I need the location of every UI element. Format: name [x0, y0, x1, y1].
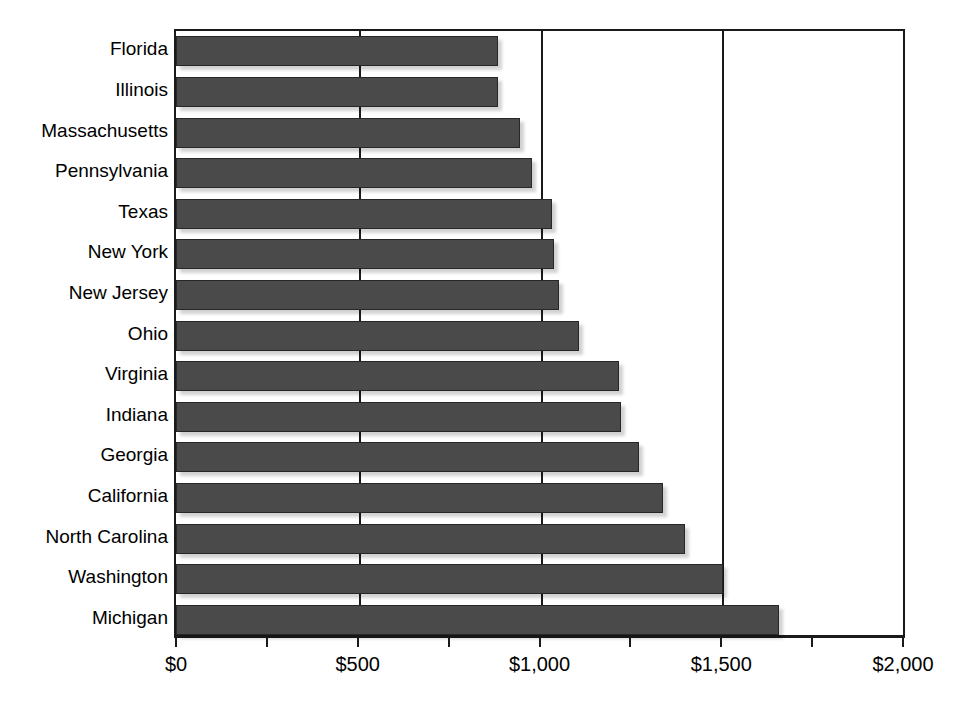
x-tick-minor-1750 [811, 638, 813, 647]
category-label: Indiana [0, 405, 168, 425]
bar-row [176, 199, 907, 229]
category-label: Massachusetts [0, 121, 168, 141]
bar-row [176, 605, 907, 635]
x-tick-major-1500 [720, 638, 722, 647]
x-axis-label: $1,000 [470, 652, 610, 676]
x-tick-minor-1250 [629, 638, 631, 647]
x-axis-label: $2,000 [833, 652, 960, 676]
bar-chart: FloridaIllinoisMassachusettsPennsylvania… [0, 0, 960, 704]
bar[interactable] [176, 402, 621, 432]
bar[interactable] [176, 118, 520, 148]
plot-area [174, 29, 905, 638]
bar-row [176, 361, 907, 391]
category-label: Ohio [0, 324, 168, 344]
category-label: Virginia [0, 364, 168, 384]
x-tick-major-500 [357, 638, 359, 647]
bar-row [176, 483, 907, 513]
category-label: Michigan [0, 608, 168, 628]
bar-row [176, 280, 907, 310]
bar-row [176, 36, 907, 66]
bar-row [176, 564, 907, 594]
bar[interactable] [176, 321, 579, 351]
x-axis-label: $1,500 [651, 652, 791, 676]
bar[interactable] [176, 483, 663, 513]
bar[interactable] [176, 524, 685, 554]
category-label: Illinois [0, 80, 168, 100]
category-label: Texas [0, 202, 168, 222]
bar[interactable] [176, 239, 554, 269]
category-label: North Carolina [0, 527, 168, 547]
category-label: Florida [0, 39, 168, 59]
bar[interactable] [176, 77, 498, 107]
bar[interactable] [176, 564, 723, 594]
category-label: Pennsylvania [0, 161, 168, 181]
x-tick-major-0 [175, 638, 177, 647]
x-tick-minor-250 [266, 638, 268, 647]
x-axis-label: $500 [288, 652, 428, 676]
bar-row [176, 158, 907, 188]
bar[interactable] [176, 36, 498, 66]
bar-row [176, 402, 907, 432]
x-axis-label: $0 [106, 652, 246, 676]
bar-row [176, 239, 907, 269]
category-label: New York [0, 242, 168, 262]
bar[interactable] [176, 199, 552, 229]
bar[interactable] [176, 158, 532, 188]
bar[interactable] [176, 280, 559, 310]
category-axis-labels: FloridaIllinoisMassachusettsPennsylvania… [0, 29, 168, 638]
category-label: California [0, 486, 168, 506]
x-tick-major-2000 [902, 638, 904, 647]
x-tick-minor-750 [448, 638, 450, 647]
bar-row [176, 321, 907, 351]
category-label: Washington [0, 567, 168, 587]
bar-row [176, 77, 907, 107]
bar[interactable] [176, 361, 619, 391]
category-label: New Jersey [0, 283, 168, 303]
x-tick-major-1000 [539, 638, 541, 647]
category-label: Georgia [0, 445, 168, 465]
bar[interactable] [176, 605, 779, 635]
bar[interactable] [176, 442, 639, 472]
bar-row [176, 524, 907, 554]
bar-row [176, 118, 907, 148]
bar-row [176, 442, 907, 472]
